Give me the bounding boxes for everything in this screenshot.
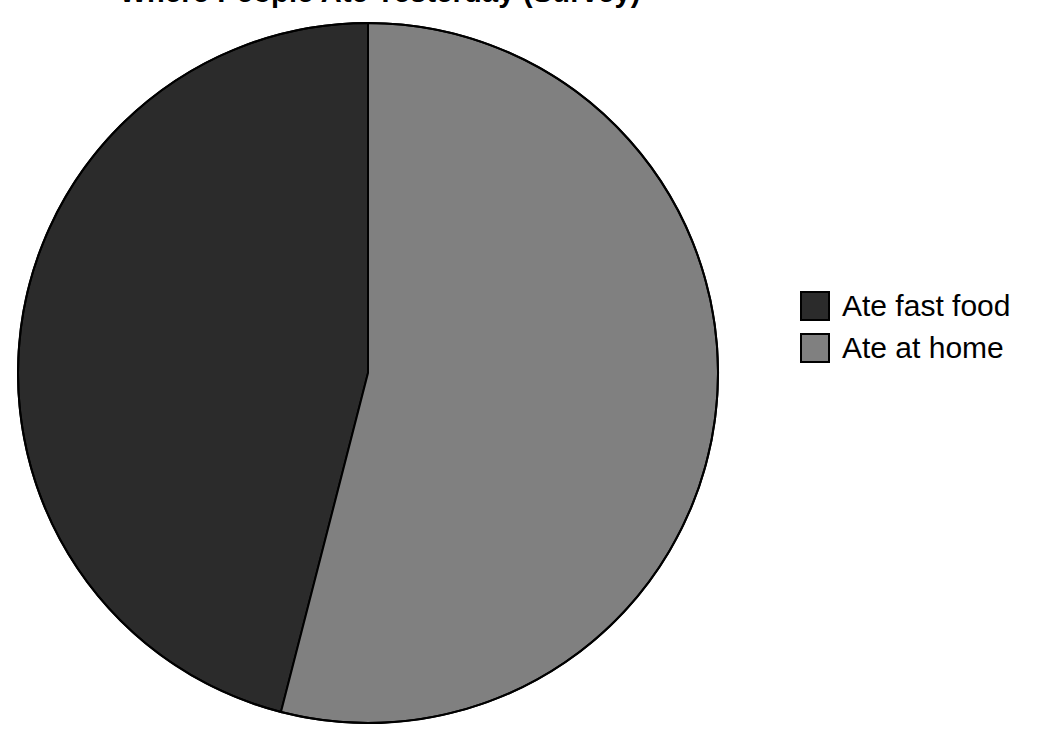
legend-label-ate-fast-food: Ate fast food xyxy=(842,291,1010,321)
pie-chart xyxy=(0,0,760,733)
legend-item-ate-at-home[interactable]: Ate at home xyxy=(800,327,1051,369)
legend-label-ate-at-home: Ate at home xyxy=(842,333,1004,363)
chart-legend: Ate fast food Ate at home xyxy=(800,285,1051,369)
pie-chart-svg xyxy=(0,0,760,733)
legend-swatch-ate-at-home xyxy=(800,333,830,363)
chart-page: Where People Ate Yesterday (Survey) Ate … xyxy=(0,0,1051,733)
legend-swatch-ate-fast-food xyxy=(800,291,830,321)
legend-item-ate-fast-food[interactable]: Ate fast food xyxy=(800,285,1051,327)
